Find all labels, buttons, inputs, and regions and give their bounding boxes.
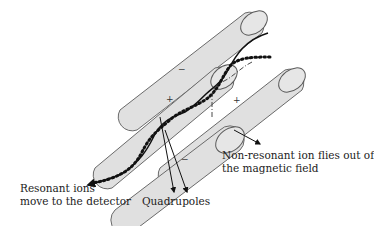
- sign-minus-bottom: −: [181, 154, 189, 164]
- quadrupoles-label: Quadrupoles: [142, 195, 210, 208]
- sign-plus-left: +: [166, 94, 174, 104]
- sign-minus-top: −: [178, 64, 186, 74]
- resonant-ions-label: Resonant ions move to the detector: [20, 182, 131, 208]
- non-resonant-label-line2: the magnetic field: [222, 162, 374, 175]
- resonant-label-line2: move to the detector: [20, 195, 131, 208]
- resonant-label-line1: Resonant ions: [20, 182, 131, 195]
- sign-plus-right: +: [233, 95, 241, 105]
- non-resonant-label: Non-resonant ion flies out of the magnet…: [222, 149, 374, 175]
- non-resonant-label-line1: Non-resonant ion flies out of: [222, 149, 374, 162]
